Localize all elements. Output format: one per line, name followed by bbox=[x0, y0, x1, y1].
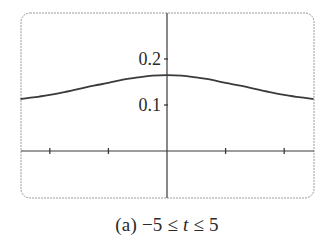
caption-suffix: ≤ 5 bbox=[189, 214, 219, 235]
figure-caption: (a) −5 ≤ t ≤ 5 bbox=[0, 214, 334, 236]
y-tick-labels: 0.10.2 bbox=[139, 49, 162, 115]
caption-prefix: (a) −5 ≤ bbox=[115, 214, 183, 235]
chart-area: 0.10.2 bbox=[0, 0, 334, 239]
y-tick-label: 0.2 bbox=[139, 49, 162, 69]
y-tick-label: 0.1 bbox=[139, 95, 162, 115]
